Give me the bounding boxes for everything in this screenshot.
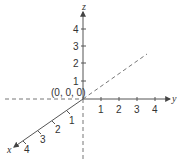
x-axis-label: x (6, 144, 12, 155)
z-tick-label: 2 (73, 58, 79, 69)
x-tick-label: 3 (40, 134, 46, 145)
x-tick-label: 2 (55, 124, 61, 135)
origin-label: (0, 0, 0) (51, 87, 85, 98)
y-tick-label: 1 (98, 104, 104, 115)
z-tick-label: 3 (73, 41, 79, 52)
y-tick-label: 4 (152, 104, 158, 115)
y-axis-label: y (171, 93, 177, 104)
z-tick-label: 4 (73, 24, 79, 35)
positive-axes (14, 12, 170, 147)
x-ticks (23, 111, 70, 144)
z-axis-label: z (81, 1, 86, 12)
z-tick-label: 1 (73, 76, 79, 87)
axes-diagram: 1 2 3 4 z 1 2 3 4 y 1 2 3 4 x (0, 0, 0) (0, 0, 180, 165)
x-tick-label: 1 (69, 115, 75, 126)
x-tick-label: 4 (24, 144, 30, 155)
negative-x-axis (83, 54, 147, 99)
y-tick-label: 3 (134, 104, 140, 115)
y-tick-label: 2 (116, 104, 122, 115)
